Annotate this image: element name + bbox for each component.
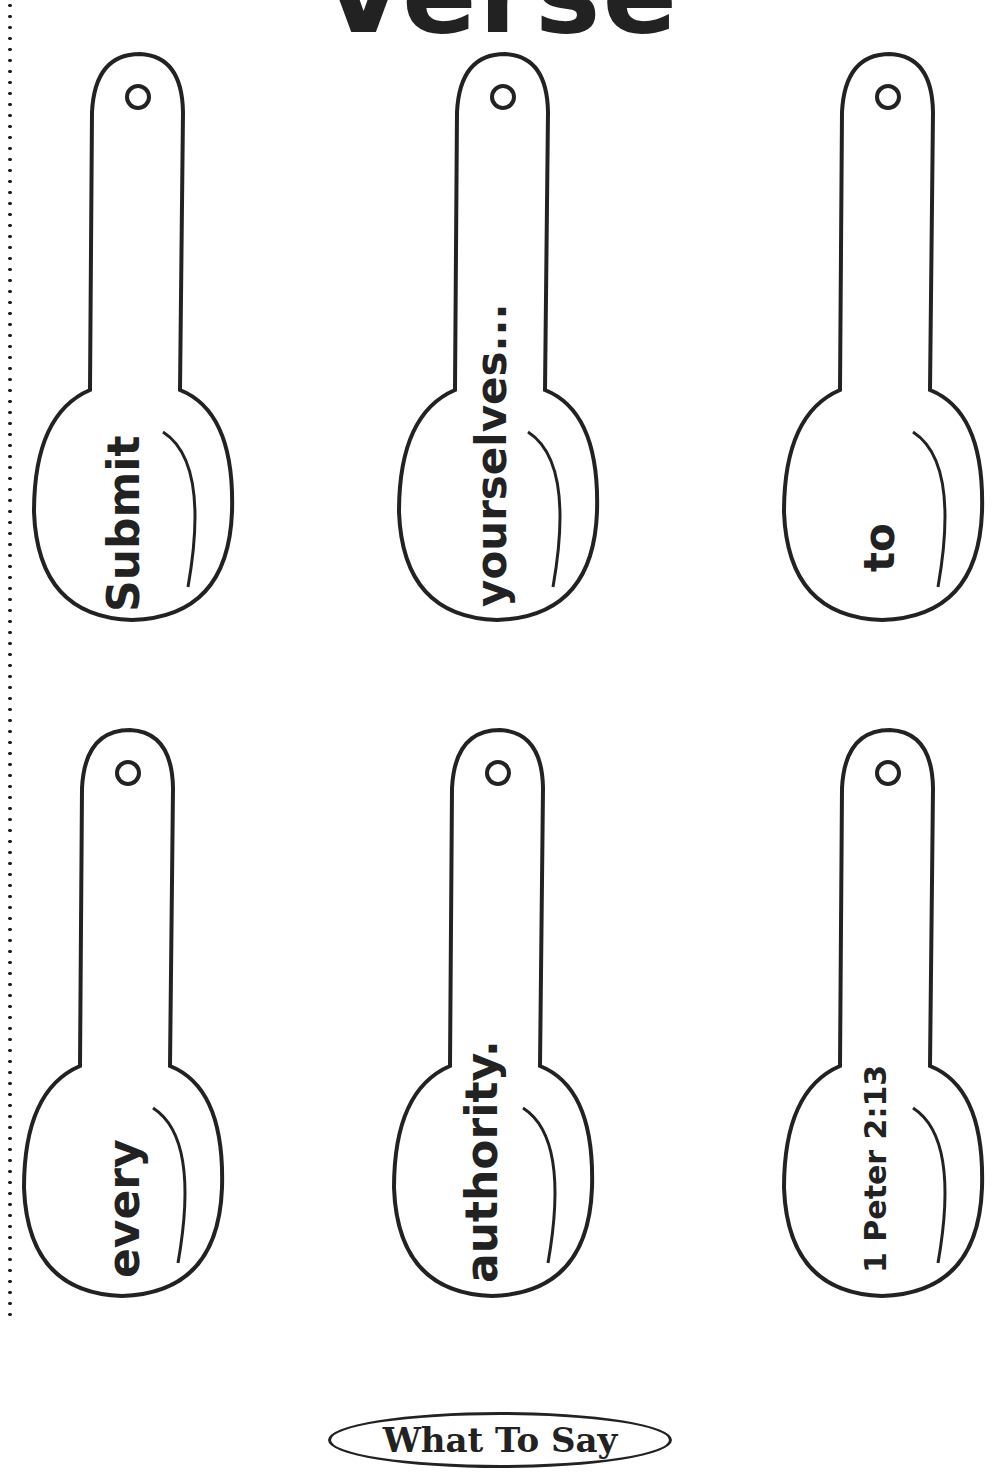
spoon-word: every: [98, 1139, 149, 1278]
footer-label: What To Say: [383, 1420, 618, 1460]
spoon-card-4: every: [10, 718, 240, 1338]
spoon-word: 1 Peter 2:13: [858, 1065, 893, 1273]
spoon-card-6: 1 Peter 2:13: [770, 718, 1000, 1338]
footer-badge: What To Say: [328, 1412, 672, 1468]
spoon-word: Submit: [98, 436, 149, 612]
spoon-card-2: yourselves...: [385, 42, 615, 662]
spoon-card-1: Submit: [20, 42, 250, 662]
spoon-word: authority.: [456, 1040, 507, 1283]
spoon-word: yourselves...: [467, 304, 516, 607]
spoon-card-5: authority.: [380, 718, 610, 1338]
spoon-card-3: to: [770, 42, 1000, 662]
spoon-word: to: [855, 523, 904, 572]
